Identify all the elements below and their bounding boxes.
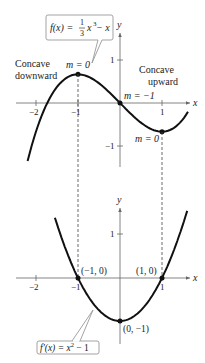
point-root-1 — [160, 276, 165, 281]
figure-canvas: x y −2 −1 1 1 −1 Concave downward Concav… — [0, 0, 205, 363]
top-graph: x y −2 −1 1 1 −1 Concave downward Concav… — [15, 15, 198, 167]
cubic-var: x — [86, 22, 92, 33]
top-x-tick-label-neg1: −1 — [71, 107, 81, 117]
cubic-rest: − x — [96, 22, 110, 33]
cubic-function-label: f(x) = — [50, 22, 73, 34]
derivative-function-callout: f′(x) = x2 − 1 — [37, 310, 99, 354]
point-inflection — [118, 101, 123, 106]
top-x-axis-label: x — [192, 97, 198, 108]
bottom-graph: x y −2 −1 1 1 (−1, 0) (1, 0) (0, −1) f′(… — [16, 194, 198, 354]
cubic-function-callout: f(x) = 1 3 x 3 − x — [46, 15, 113, 63]
bottom-x-axis-label: x — [192, 272, 198, 283]
concave-down-label-2: downward — [15, 70, 57, 81]
bottom-y-tick-label-1: 1 — [110, 229, 115, 239]
derivative-function-label: f′(x) = x2 − 1 — [40, 341, 89, 354]
top-y-tick-label-neg1: −1 — [105, 141, 115, 151]
root-label-neg1: (−1, 0) — [81, 266, 107, 277]
top-y-tick-label-1: 1 — [110, 55, 115, 65]
bottom-x-tick-label-1: 1 — [160, 282, 165, 292]
slope-label-max: m = 0 — [66, 59, 90, 70]
bottom-y-axis-label: y — [116, 194, 122, 205]
point-vertex — [118, 319, 123, 324]
vertex-label: (0, −1) — [123, 324, 149, 335]
slope-label-min: m = 0 — [135, 133, 159, 144]
concave-up-label-2: upward — [148, 76, 178, 87]
parabola-curve — [55, 211, 187, 321]
concave-up-label-1: Concave — [139, 64, 175, 75]
point-root-neg1 — [76, 276, 81, 281]
root-label-1: (1, 0) — [136, 266, 157, 277]
bottom-x-tick-label-neg2: −2 — [29, 282, 39, 292]
top-x-tick-label-neg2: −2 — [29, 107, 39, 117]
concave-down-label-1: Concave — [15, 58, 51, 69]
frac-denominator: 3 — [80, 29, 84, 38]
frac-numerator: 1 — [80, 18, 84, 27]
top-y-axis-label: y — [116, 19, 122, 30]
bottom-x-tick-label-neg1: −1 — [71, 282, 81, 292]
slope-label-inflection: m = −1 — [124, 90, 155, 101]
top-x-tick-label-1: 1 — [160, 107, 165, 117]
